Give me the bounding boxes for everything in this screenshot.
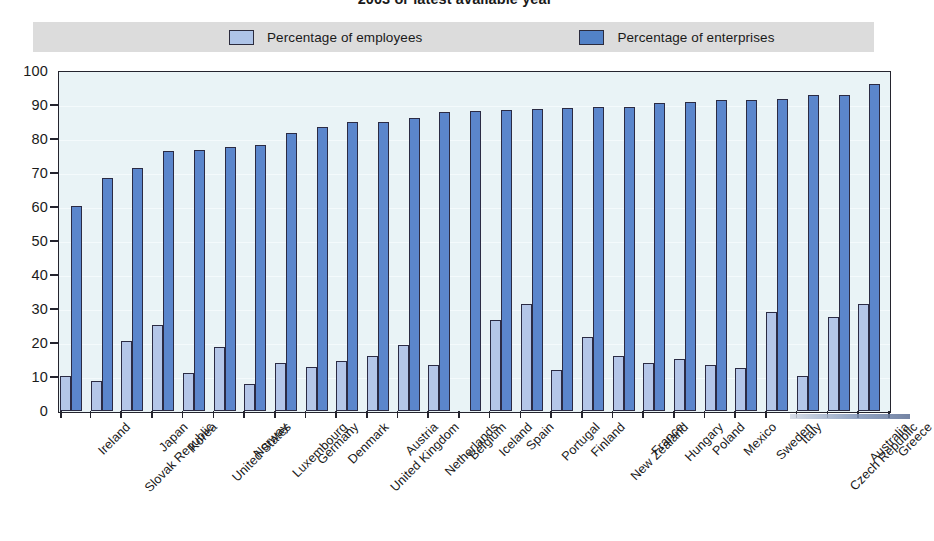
- bar-group: [367, 71, 398, 411]
- bar-employees[interactable]: [858, 304, 869, 411]
- x-tick: [642, 411, 644, 418]
- legend-label-enterprises: Percentage of enterprises: [617, 30, 774, 45]
- legend-swatch-employees-icon: [229, 30, 254, 45]
- bar-employees[interactable]: [244, 384, 255, 411]
- bar-enterprises[interactable]: [746, 100, 757, 411]
- bar-employees[interactable]: [582, 337, 593, 411]
- bar-employees[interactable]: [551, 370, 562, 411]
- bar-group: [214, 71, 245, 411]
- bar-enterprises[interactable]: [777, 99, 788, 411]
- y-tick-label-50: 50: [0, 233, 48, 249]
- bar-employees[interactable]: [60, 376, 71, 411]
- x-tick: [550, 411, 552, 418]
- bar-employees[interactable]: [828, 317, 839, 411]
- bar-enterprises[interactable]: [286, 133, 297, 411]
- legend-item-employees[interactable]: Percentage of employees: [229, 30, 422, 45]
- bar-enterprises[interactable]: [225, 147, 236, 411]
- y-tick-mark-40: [50, 274, 58, 276]
- x-tick: [704, 411, 706, 418]
- x-tick: [673, 411, 675, 418]
- bar-enterprises[interactable]: [163, 151, 174, 411]
- y-tick-label-40: 40: [0, 267, 48, 283]
- x-tick: [581, 411, 583, 418]
- bar-enterprises[interactable]: [593, 107, 604, 411]
- bar-group: [582, 71, 613, 411]
- bar-enterprises[interactable]: [716, 100, 727, 411]
- bar-enterprises[interactable]: [194, 150, 205, 411]
- bar-enterprises[interactable]: [839, 95, 850, 411]
- bar-employees[interactable]: [91, 381, 102, 411]
- bar-enterprises[interactable]: [439, 112, 450, 411]
- bar-enterprises[interactable]: [470, 111, 481, 411]
- bar-group: [183, 71, 214, 411]
- bar-employees[interactable]: [121, 341, 132, 411]
- y-tick-label-60: 60: [0, 199, 48, 215]
- x-axis-ticks: [60, 411, 889, 418]
- bar-employees[interactable]: [398, 345, 409, 411]
- x-tick: [120, 411, 122, 418]
- bar-employees[interactable]: [705, 365, 716, 411]
- x-tick: [612, 411, 614, 418]
- bar-enterprises[interactable]: [562, 108, 573, 411]
- bar-enterprises[interactable]: [654, 103, 665, 411]
- bar-employees[interactable]: [643, 363, 654, 411]
- bar-group: [60, 71, 91, 411]
- bar-enterprises[interactable]: [255, 145, 266, 411]
- bar-enterprises[interactable]: [808, 95, 819, 411]
- bar-enterprises[interactable]: [685, 102, 696, 411]
- bar-group: [766, 71, 797, 411]
- bar-enterprises[interactable]: [317, 127, 328, 411]
- bar-employees[interactable]: [613, 356, 624, 411]
- x-tick: [151, 411, 153, 418]
- x-axis-label-ireland: Ireland: [96, 420, 134, 458]
- bar-enterprises[interactable]: [132, 168, 143, 411]
- x-tick: [90, 411, 92, 418]
- bar-employees[interactable]: [214, 347, 225, 411]
- y-tick-mark-70: [50, 172, 58, 174]
- x-tick: [305, 411, 307, 418]
- bar-employees[interactable]: [521, 304, 532, 411]
- x-tick: [213, 411, 215, 418]
- bar-employees[interactable]: [152, 325, 163, 411]
- bar-group: [521, 71, 552, 411]
- bar-enterprises[interactable]: [624, 107, 635, 411]
- x-tick: [520, 411, 522, 418]
- bar-employees[interactable]: [183, 373, 194, 411]
- bar-enterprises[interactable]: [71, 206, 82, 411]
- bar-employees[interactable]: [490, 320, 501, 411]
- y-tick-mark-30: [50, 308, 58, 310]
- x-tick: [366, 411, 368, 418]
- bar-group: [490, 71, 521, 411]
- bar-group: [275, 71, 306, 411]
- bar-employees[interactable]: [674, 359, 685, 411]
- x-tick: [734, 411, 736, 418]
- bar-enterprises[interactable]: [347, 122, 358, 411]
- bar-employees[interactable]: [367, 356, 378, 411]
- x-axis-label-korea: Korea: [186, 420, 220, 454]
- bar-group: [244, 71, 275, 411]
- bar-employees[interactable]: [428, 365, 439, 411]
- legend-swatch-enterprises-icon: [579, 30, 604, 45]
- bar-enterprises[interactable]: [409, 118, 420, 411]
- y-tick-mark-50: [50, 240, 58, 242]
- bar-enterprises[interactable]: [869, 84, 880, 411]
- bar-enterprises[interactable]: [532, 109, 543, 411]
- bar-employees[interactable]: [275, 363, 286, 411]
- bar-enterprises[interactable]: [102, 178, 113, 411]
- bar-group: [428, 71, 459, 411]
- bar-employees[interactable]: [306, 367, 317, 411]
- bar-group: [152, 71, 183, 411]
- y-tick-mark-60: [50, 206, 58, 208]
- bar-enterprises[interactable]: [501, 110, 512, 411]
- bar-enterprises[interactable]: [378, 122, 389, 411]
- bar-employees[interactable]: [336, 361, 347, 411]
- bar-group: [643, 71, 674, 411]
- x-tick: [243, 411, 245, 418]
- bar-employees[interactable]: [735, 368, 746, 411]
- bar-group: [398, 71, 429, 411]
- y-tick-label-100: 100: [0, 63, 48, 79]
- bar-employees[interactable]: [797, 376, 808, 411]
- legend-item-enterprises[interactable]: Percentage of enterprises: [579, 30, 774, 45]
- x-tick: [274, 411, 276, 418]
- bar-employees[interactable]: [766, 312, 777, 411]
